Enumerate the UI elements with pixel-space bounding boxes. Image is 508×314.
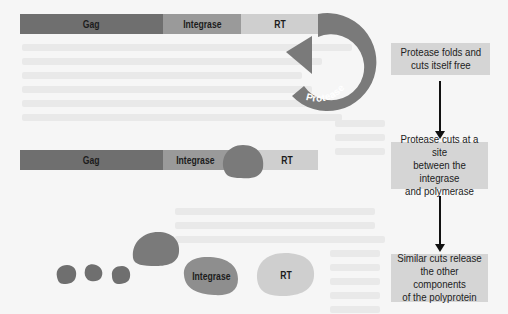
arrow-2-shaft xyxy=(439,196,441,246)
step-2-line-2: between the integrase xyxy=(397,159,482,185)
gag-fragment-blob-icon xyxy=(85,264,103,281)
step-box-2: Protease cuts at a site between the inte… xyxy=(391,142,488,189)
step-3-line-1: Similar cuts release xyxy=(397,252,482,265)
freed-protease-blob-icon xyxy=(133,232,179,266)
step-3-line-3: of the polyprotein xyxy=(397,291,482,304)
step-2-line-1: Protease cuts at a site xyxy=(397,133,482,159)
step-3-line-2: the other components xyxy=(397,265,482,291)
arrow-1-shaft xyxy=(439,81,441,133)
down-arrow-2-icon xyxy=(435,244,445,252)
rt-blob: RT xyxy=(257,253,314,296)
step-box-1: Protease folds and cuts itself free xyxy=(391,43,490,75)
step-box-3: Similar cuts release the other component… xyxy=(391,254,488,302)
gag-fragment-blob-icon xyxy=(57,265,77,284)
rt-blob-label: RT xyxy=(280,269,291,281)
gag-fragment-blob-icon xyxy=(112,266,130,284)
step-1-line-1: Protease folds and xyxy=(400,46,481,59)
step-1-line-2: cuts itself free xyxy=(400,59,481,72)
integrase-blob: Integrase xyxy=(184,257,238,295)
protease-blob-icon xyxy=(223,145,263,178)
integrase-blob-label: Integrase xyxy=(192,270,230,282)
